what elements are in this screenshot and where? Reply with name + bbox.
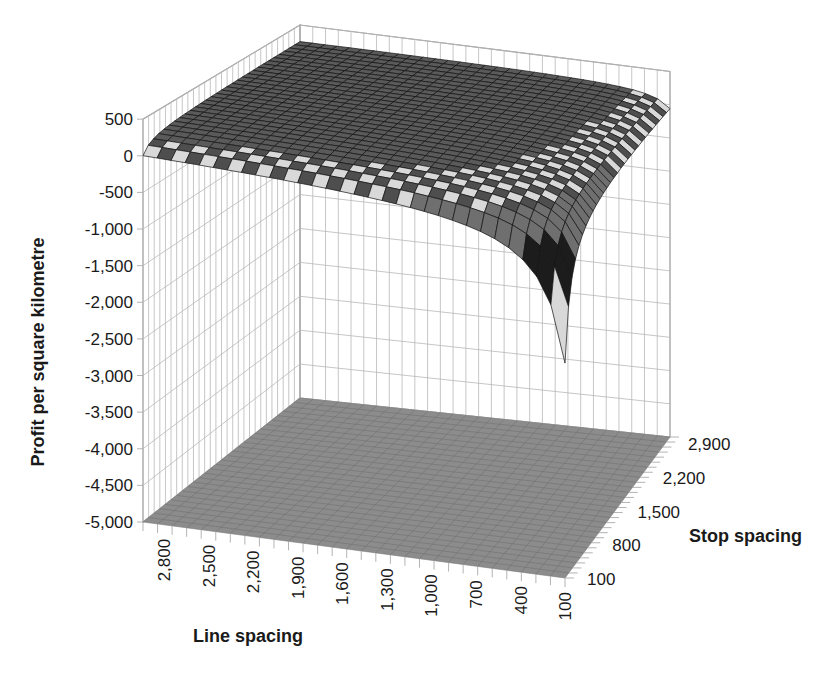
x-tick-label: 100 xyxy=(556,592,575,620)
z-tick-label: -1,500 xyxy=(85,257,133,276)
z-tick-label: -4,000 xyxy=(85,440,133,459)
y-tick-label: 2,200 xyxy=(663,469,706,488)
y-tick-label: 100 xyxy=(587,570,615,589)
z-tick-label: -3,000 xyxy=(85,367,133,386)
x-tick-label: 1,600 xyxy=(333,562,352,605)
surface-chart: 5000-500-1,000-1,500-2,000-2,500-3,000-3… xyxy=(0,0,837,673)
y-axis-title: Stop spacing xyxy=(689,526,802,546)
chart-floor xyxy=(143,398,670,578)
x-tick-label: 700 xyxy=(467,580,486,608)
x-tick-label: 400 xyxy=(512,586,531,614)
z-axis-title: Profit per square kilometre xyxy=(28,237,48,466)
z-tick-label: -1,000 xyxy=(85,220,133,239)
surface-plot xyxy=(143,42,670,364)
z-tick-label: 0 xyxy=(124,147,133,166)
y-tick-label: 800 xyxy=(612,536,640,555)
z-tick-label: -3,500 xyxy=(85,403,133,422)
z-tick-label: -5,000 xyxy=(85,513,133,532)
x-tick-label: 1,900 xyxy=(289,557,308,600)
z-tick-label: -2,000 xyxy=(85,293,133,312)
z-tick-label: 500 xyxy=(105,110,133,129)
x-axis-title: Line spacing xyxy=(193,626,303,646)
x-tick-label: 2,500 xyxy=(200,545,219,588)
x-tick-label: 2,200 xyxy=(244,551,263,594)
z-tick-label: -4,500 xyxy=(85,476,133,495)
y-tick-label: 2,900 xyxy=(688,435,731,454)
z-axis-ticks: 5000-500-1,000-1,500-2,000-2,500-3,000-3… xyxy=(85,110,143,532)
x-tick-label: 1,000 xyxy=(422,574,441,617)
x-tick-label: 2,800 xyxy=(155,539,174,582)
z-tick-label: -500 xyxy=(99,183,133,202)
x-tick-label: 1,300 xyxy=(378,568,397,611)
z-tick-label: -2,500 xyxy=(85,330,133,349)
y-tick-label: 1,500 xyxy=(638,503,681,522)
